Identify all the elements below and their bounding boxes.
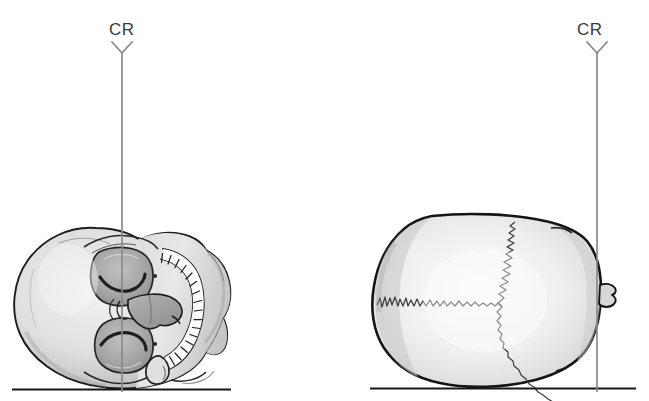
vertex-highlight	[423, 248, 547, 352]
right-skull-illustration	[372, 214, 615, 401]
cr-arrow-chevron-right	[587, 42, 607, 53]
cr-label-left: CR	[109, 20, 135, 40]
cr-label-right: CR	[577, 20, 603, 40]
right-panel-graphics	[0, 0, 649, 401]
figure-canvas: CR CR	[0, 0, 649, 401]
nasal-bone-prominence	[599, 284, 616, 307]
